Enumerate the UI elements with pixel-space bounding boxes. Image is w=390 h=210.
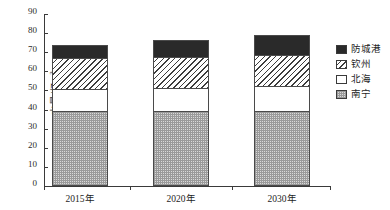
chart-legend: 防城港钦州北海南宁	[336, 42, 381, 102]
bar-segment-钦州	[153, 57, 209, 88]
bar-segment-南宁	[254, 111, 310, 186]
y-axis-tick-label: 40	[28, 103, 37, 112]
legend-item-防城港[interactable]: 防城港	[336, 42, 381, 57]
x-axis-label-2030年: 2030年	[242, 191, 322, 205]
y-axis-tick-label: 60	[28, 64, 37, 73]
legend-item-南宁[interactable]: 南宁	[336, 87, 381, 102]
legend-swatch-icon	[336, 90, 347, 99]
legend-item-label: 钦州	[351, 60, 371, 70]
y-axis-tick-label: 30	[28, 122, 37, 131]
bar-segment-防城港	[153, 40, 209, 57]
bar-segment-北海	[254, 86, 310, 111]
bar-segment-钦州	[52, 58, 108, 89]
bar-segment-南宁	[153, 111, 209, 186]
legend-swatch-icon	[336, 45, 347, 54]
bar-segment-防城港	[254, 35, 310, 55]
y-axis-tick-label: 70	[28, 45, 37, 54]
bar-segment-防城港	[52, 45, 108, 58]
x-axis-line	[44, 186, 330, 187]
bar-segment-南宁	[52, 111, 108, 186]
x-axis-tick-mark	[232, 186, 233, 190]
legend-swatch-icon	[336, 60, 347, 69]
bar-2020年	[153, 40, 209, 186]
y-axis-tick-label: 50	[28, 83, 37, 92]
legend-swatch-icon	[336, 75, 347, 84]
bar-segment-北海	[153, 88, 209, 111]
legend-item-label: 北海	[351, 75, 371, 85]
y-axis-tick-label: 80	[28, 26, 37, 35]
y-axis-tick-label: 20	[28, 141, 37, 150]
legend-item-label: 防城港	[351, 45, 381, 55]
legend-item-label: 南宁	[351, 90, 371, 100]
legend-item-钦州[interactable]: 钦州	[336, 57, 381, 72]
bar-2030年	[254, 35, 310, 186]
legend-item-北海[interactable]: 北海	[336, 72, 381, 87]
stacked-bar-chart: 水量/亿m3 0102030405060708090 2015年2020年203…	[0, 0, 390, 210]
x-axis-label-2020年: 2020年	[141, 191, 221, 205]
y-axis-tick-label: 10	[28, 160, 37, 169]
y-axis-tick-label: 90	[28, 7, 37, 16]
bar-segment-北海	[52, 89, 108, 112]
y-axis-tick-label: 0	[33, 179, 38, 188]
bar-segment-钦州	[254, 55, 310, 86]
x-axis-label-2015年: 2015年	[40, 191, 120, 205]
x-axis-tick-mark	[44, 186, 45, 190]
bar-2015年	[52, 45, 108, 186]
plot-area	[44, 14, 330, 186]
x-axis-tick-mark	[330, 186, 331, 190]
x-axis-tick-mark	[130, 186, 131, 190]
